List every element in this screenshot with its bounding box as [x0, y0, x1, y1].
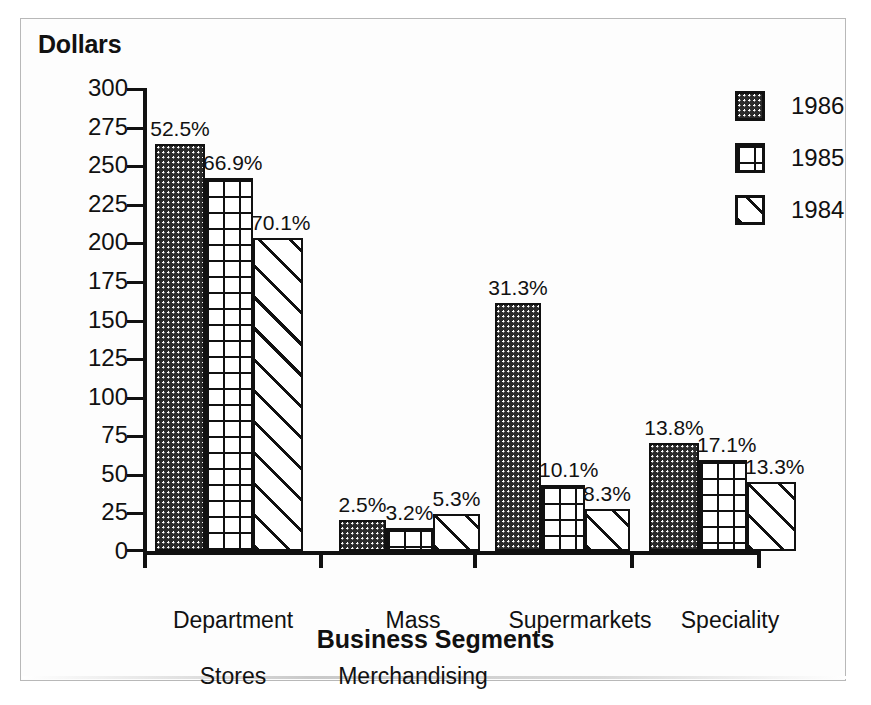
- legend-item-1984[interactable]: 1984: [735, 184, 844, 236]
- y-tick-100: [127, 397, 143, 400]
- y-tick-125: [127, 358, 143, 361]
- bar-group-mass-merchandising: 2.5% 3.2% 5.3%: [339, 514, 480, 551]
- bar-wrap-1985: 66.9%: [205, 178, 253, 552]
- y-tick-label-150: 150: [88, 308, 128, 332]
- y-axis-tick-labels: 300 275 250 225 200 175 150 125 100 75 5…: [0, 76, 128, 556]
- y-tick-50: [127, 474, 143, 477]
- category-line-2: Stores: [143, 662, 323, 690]
- bar-wrap-1986: 52.5%: [155, 144, 205, 552]
- bar-wrap-1984: 8.3%: [585, 509, 630, 551]
- legend-label-1985: 1985: [791, 144, 844, 172]
- y-tick-label-125: 125: [88, 346, 128, 370]
- y-tick-label-275: 275: [88, 115, 128, 139]
- bar-1986-department-stores[interactable]: [155, 144, 205, 552]
- bar-1985-mass-merchandising[interactable]: [386, 528, 433, 551]
- category-line-2: Merchandising: [318, 662, 508, 690]
- bar-value-label: 70.1%: [251, 211, 311, 235]
- y-tick-75: [127, 435, 143, 438]
- bar-wrap-1986: 2.5%: [339, 520, 386, 551]
- bar-wrap-1986: 13.8%: [649, 443, 699, 551]
- bar-value-label: 3.2%: [386, 501, 434, 525]
- legend-swatch-1985-grid-icon: [735, 143, 765, 173]
- bar-wrap-1985: 10.1%: [541, 485, 585, 551]
- bar-1985-department-stores[interactable]: [205, 178, 253, 552]
- y-tick-label-75: 75: [101, 423, 128, 447]
- y-tick-label-225: 225: [88, 192, 128, 216]
- bar-1984-supermarkets[interactable]: [585, 509, 630, 551]
- x-tick-2: [473, 551, 477, 568]
- bar-1985-supermarkets[interactable]: [541, 485, 585, 551]
- bar-value-label: 13.8%: [644, 416, 704, 440]
- y-tick-label-300: 300: [88, 76, 128, 100]
- bar-wrap-1985: 3.2%: [386, 528, 433, 551]
- bar-value-label: 66.9%: [203, 151, 263, 175]
- bar-1986-supermarkets[interactable]: [495, 303, 541, 552]
- bar-chart: Dollars 300 275 250 225 200 175 150 125 …: [0, 0, 871, 705]
- y-tick-300: [127, 88, 143, 91]
- y-tick-label-50: 50: [101, 462, 128, 486]
- bar-value-label: 8.3%: [583, 482, 631, 506]
- bar-value-label: 5.3%: [433, 487, 481, 511]
- bar-value-label: 10.1%: [539, 458, 599, 482]
- bar-value-label: 17.1%: [697, 433, 757, 457]
- x-tick-0: [143, 551, 147, 568]
- legend-item-1986[interactable]: 1986: [735, 80, 844, 132]
- bar-wrap-1985: 17.1%: [699, 460, 747, 551]
- legend-item-1985[interactable]: 1985: [735, 132, 844, 184]
- x-axis-line: [143, 551, 761, 555]
- legend-label-1984: 1984: [791, 196, 844, 224]
- y-tick-25: [127, 512, 143, 515]
- x-tick-1: [319, 551, 323, 568]
- bar-value-label: 31.3%: [488, 276, 548, 300]
- x-tick-4: [757, 551, 761, 568]
- bar-group-supermarkets: 31.3% 10.1% 8.3%: [495, 303, 630, 552]
- legend-swatch-1986-dotted-icon: [735, 91, 765, 121]
- legend-swatch-1984-diagonal-icon: [735, 195, 765, 225]
- y-tick-label-175: 175: [88, 269, 128, 293]
- y-tick-150: [127, 320, 143, 323]
- y-axis-title: Dollars: [38, 30, 121, 59]
- y-tick-0: [127, 549, 143, 552]
- y-tick-200: [127, 242, 143, 245]
- bar-1984-speciality[interactable]: [747, 482, 796, 552]
- y-tick-label-100: 100: [88, 385, 128, 409]
- bar-1984-mass-merchandising[interactable]: [433, 514, 480, 551]
- bar-group-department-stores: 52.5% 66.9% 70.1%: [155, 144, 303, 552]
- bar-1984-department-stores[interactable]: [253, 238, 303, 551]
- bar-group-speciality: 13.8% 17.1% 13.3%: [649, 443, 796, 551]
- y-tick-250: [127, 165, 143, 168]
- y-tick-label-250: 250: [88, 153, 128, 177]
- bar-wrap-1984: 5.3%: [433, 514, 480, 551]
- bar-value-label: 52.5%: [150, 117, 210, 141]
- bar-1986-speciality[interactable]: [649, 443, 699, 551]
- x-tick-3: [630, 551, 634, 568]
- y-tick-275: [127, 127, 143, 130]
- y-tick-175: [127, 281, 143, 284]
- y-tick-label-0: 0: [115, 539, 128, 563]
- bar-wrap-1984: 13.3%: [747, 482, 796, 552]
- y-tick-label-25: 25: [101, 500, 128, 524]
- y-tick-label-200: 200: [88, 230, 128, 254]
- chart-legend: 1986 1985 1984: [735, 80, 844, 236]
- bar-1985-speciality[interactable]: [699, 460, 747, 551]
- bar-value-label: 2.5%: [339, 493, 387, 517]
- bar-wrap-1984: 70.1%: [253, 238, 303, 551]
- bar-value-label: 13.3%: [745, 455, 805, 479]
- legend-label-1986: 1986: [791, 92, 844, 120]
- bar-wrap-1986: 31.3%: [495, 303, 541, 552]
- plot-area: 52.5% 66.9% 70.1% 2.5% 3.2% 5: [143, 88, 761, 551]
- y-tick-225: [127, 204, 143, 207]
- x-axis-title: Business Segments: [0, 625, 871, 654]
- y-axis-line: [143, 88, 147, 551]
- bar-1986-mass-merchandising[interactable]: [339, 520, 386, 551]
